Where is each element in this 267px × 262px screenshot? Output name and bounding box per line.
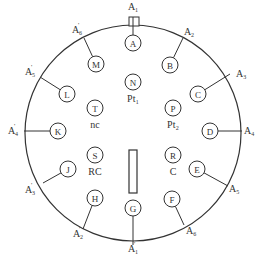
svg-text:N: N bbox=[130, 78, 137, 88]
leader-line-h bbox=[83, 205, 92, 229]
inner-pin-p: PPt₂ bbox=[165, 100, 181, 130]
pin-d: D bbox=[202, 123, 218, 139]
pin-letter: E bbox=[194, 165, 200, 175]
external-label-a1: A1 bbox=[128, 1, 138, 13]
external-label-a3-prime: A3' bbox=[25, 181, 35, 196]
leader-line-l bbox=[40, 77, 60, 90]
pin-letter: B bbox=[167, 61, 173, 71]
external-label-a4: A4 bbox=[244, 125, 254, 137]
pin-c: C bbox=[190, 86, 206, 102]
inner-pin-function-label: RC bbox=[88, 166, 102, 177]
pin-letter: L bbox=[64, 90, 70, 100]
pin-letter: C bbox=[195, 90, 201, 100]
pin-letter: F bbox=[169, 195, 174, 205]
leader-line-j bbox=[43, 173, 61, 183]
top-key-notch bbox=[129, 17, 139, 26]
leader-line-b bbox=[173, 38, 183, 58]
leader-line-m bbox=[84, 38, 93, 57]
external-label-a5: A5 bbox=[229, 183, 239, 195]
pin-letter: A bbox=[130, 39, 137, 49]
pin-letter: J bbox=[66, 165, 70, 175]
external-label-a4-prime: A4' bbox=[8, 122, 18, 137]
external-label-a6: A6 bbox=[186, 225, 196, 237]
pin-a: A bbox=[125, 35, 141, 51]
external-label-a3: A3 bbox=[236, 68, 246, 80]
pin-letter: K bbox=[55, 127, 62, 137]
pin-letter: D bbox=[207, 127, 214, 137]
svg-text:R: R bbox=[170, 151, 176, 161]
inner-pin-s: SRC bbox=[87, 147, 103, 177]
pin-h: H bbox=[87, 190, 103, 206]
leader-line-c bbox=[205, 74, 230, 90]
pin-l: L bbox=[59, 86, 75, 102]
leader-line-e bbox=[204, 173, 228, 186]
pin-g: G bbox=[125, 200, 141, 216]
external-label-a2-prime: A2' bbox=[73, 225, 83, 240]
inner-pin-function-label: Pt₁ bbox=[127, 93, 139, 104]
inner-pin-function-label: C bbox=[170, 166, 177, 177]
external-label-a1-prime: A1' bbox=[128, 240, 138, 255]
pin-m: M bbox=[88, 56, 104, 72]
inner-pin-n: NPt₁ bbox=[125, 74, 141, 104]
pin-letter: M bbox=[92, 60, 100, 70]
pin-letter: G bbox=[130, 204, 137, 214]
pin-letter: H bbox=[92, 194, 99, 204]
inner-pin-function-label: Pt₂ bbox=[167, 119, 179, 130]
svg-text:S: S bbox=[92, 151, 97, 161]
pin-f: F bbox=[164, 191, 180, 207]
inner-pin-t: Tnc bbox=[87, 100, 103, 130]
inner-pin-function-label: nc bbox=[90, 119, 100, 130]
svg-text:T: T bbox=[92, 104, 98, 114]
pin-e: E bbox=[189, 161, 205, 177]
pin-j: J bbox=[60, 161, 76, 177]
external-label-a2: A2 bbox=[184, 26, 194, 38]
svg-text:P: P bbox=[170, 104, 175, 114]
pin-b: B bbox=[162, 57, 178, 73]
center-key-slot bbox=[129, 150, 137, 193]
external-label-a5-prime: A5' bbox=[25, 63, 35, 78]
connector-pin-diagram: ABCDEFGHJKLM NPt₁PPt₂TncSRCRC A1A2A3A4A5… bbox=[0, 0, 267, 262]
pin-k: K bbox=[50, 123, 66, 139]
leader-line-f bbox=[175, 206, 184, 225]
inner-pin-r: RC bbox=[165, 147, 181, 177]
external-label-a6-prime: A6' bbox=[72, 21, 82, 36]
